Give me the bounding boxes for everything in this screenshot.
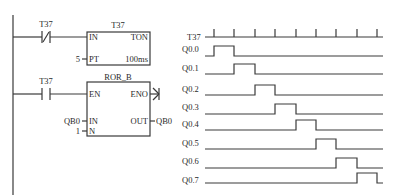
signal-label-q0-1: Q0.1 (182, 63, 199, 73)
rung2-contact-label: T37 (39, 76, 53, 86)
ton-pt-label: PT (89, 54, 100, 64)
ror-in-label: IN (89, 116, 98, 126)
signal-waveform-q0-7 (205, 173, 383, 183)
signal-label-q0-3: Q0.3 (182, 102, 199, 112)
ror-n-label: N (89, 126, 95, 136)
signal-waveform-q0-5 (205, 139, 383, 149)
eno-connector-icon (150, 88, 159, 100)
normally-open-contact-icon (42, 88, 50, 100)
signal-label-q0-7: Q0.7 (182, 175, 199, 185)
ror-out-value: QB0 (156, 116, 172, 126)
signal-waveform-q0-3 (205, 104, 383, 114)
ton-timebase-label: 100ms (125, 54, 148, 64)
rung-1: T37 T37 IN TON PT 100ms 5 (13, 19, 150, 65)
ror-in-value: QB0 (64, 116, 80, 126)
ror-eno-label: ENO (131, 89, 148, 99)
rung1-contact-label: T37 (39, 19, 53, 29)
ton-timer-block: T37 IN TON PT 100ms 5 (76, 20, 150, 65)
ror-en-label: EN (89, 89, 100, 99)
signal-waveform-q0-4 (205, 120, 383, 130)
ton-block-title: T37 (111, 20, 125, 30)
ror-b-block: ROR_B EN ENO IN QB0 OUT QB0 N 1 (64, 72, 172, 136)
clock-ticks (214, 29, 377, 37)
ton-type-label: TON (131, 32, 148, 42)
normally-closed-contact-icon (42, 31, 50, 43)
ton-pt-value: 5 (76, 54, 80, 64)
ror-block-title: ROR_B (104, 72, 132, 82)
timing-clock-label: T37 (187, 32, 201, 42)
signal-label-q0-5: Q0.5 (182, 138, 199, 148)
signal-label-q0-4: Q0.4 (182, 119, 200, 129)
timing-diagram: T37 Q0.0 Q0.1 Q0.2 Q0.3 Q0.4 Q0.5 (182, 29, 383, 185)
signal-label-q0-0: Q0.0 (182, 44, 199, 54)
rung-2: T37 ROR_B EN ENO IN QB0 OUT QB0 N 1 (13, 72, 172, 136)
signal-label-q0-2: Q0.2 (182, 84, 199, 94)
signal-waveform-q0-1 (205, 64, 383, 74)
ror-n-value: 1 (76, 126, 80, 136)
ton-in-label: IN (89, 32, 98, 42)
ror-out-label: OUT (131, 116, 149, 126)
ladder-and-timing-diagram: T37 T37 IN TON PT 100ms 5 T37 ROR_B EN E… (0, 0, 401, 195)
signal-label-q0-6: Q0.6 (182, 156, 199, 166)
signal-waveform-q0-2 (205, 85, 383, 95)
signal-waveform-q0-6 (205, 158, 383, 168)
signal-waveform-q0-0 (205, 46, 383, 56)
